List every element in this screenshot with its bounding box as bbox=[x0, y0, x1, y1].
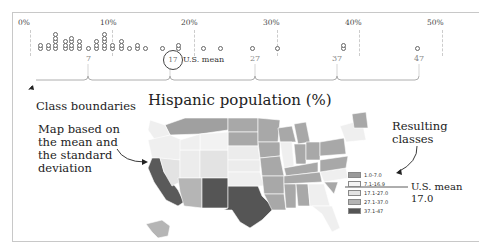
state-nd bbox=[228, 118, 258, 132]
state-or-id bbox=[148, 135, 182, 160]
state-iowa bbox=[258, 142, 280, 158]
state-maine bbox=[352, 112, 368, 128]
state-alabama bbox=[296, 184, 310, 206]
legend-swatch bbox=[348, 208, 361, 214]
mean-right-line: U.S. mean bbox=[411, 181, 462, 193]
state-georgia bbox=[308, 184, 330, 206]
legend-item: 37.1-47 bbox=[348, 207, 383, 214]
legend-item: 27.1-37.0 bbox=[348, 198, 388, 205]
state-florida bbox=[312, 206, 340, 232]
state-indiana bbox=[294, 144, 306, 164]
state-michigan bbox=[294, 122, 310, 144]
state-arkansas bbox=[262, 176, 284, 194]
mean-right-line: 17.0 bbox=[411, 193, 462, 205]
legend-label: 17.1-27.0 bbox=[364, 190, 388, 196]
legend-swatch bbox=[348, 190, 361, 196]
state-new-mexico bbox=[202, 178, 228, 208]
state-wisconsin bbox=[278, 126, 296, 142]
state-minnesota bbox=[258, 118, 280, 142]
state-utah bbox=[180, 150, 200, 178]
us-mean-legend-annotation: U.S. mean 17.0 bbox=[411, 181, 462, 205]
state-oklahoma bbox=[228, 172, 264, 186]
legend-item: 17.1-27.0 bbox=[348, 189, 388, 196]
state-wyoming bbox=[200, 132, 228, 150]
legend-item: 1.0-7.0 bbox=[348, 171, 382, 178]
legend-label: 7.1-16.9 bbox=[364, 181, 385, 187]
state-alaska bbox=[146, 220, 170, 238]
state-kansas bbox=[228, 160, 260, 172]
state-sd bbox=[228, 132, 258, 146]
state-nebraska bbox=[228, 146, 260, 160]
state-mississippi bbox=[284, 184, 296, 208]
legend-swatch bbox=[348, 172, 361, 178]
legend-label: 1.0-7.0 bbox=[364, 172, 382, 178]
legend-item: 7.1-16.9 bbox=[348, 180, 385, 187]
state-colorado bbox=[200, 150, 228, 178]
legend-label: 27.1-37.0 bbox=[364, 199, 388, 205]
state-missouri bbox=[260, 156, 284, 176]
state-pennsylvania bbox=[320, 138, 346, 156]
state-ohio bbox=[306, 142, 320, 160]
legend-label: 37.1-47 bbox=[364, 208, 383, 214]
legend-swatch bbox=[348, 199, 361, 205]
us-choropleth-map bbox=[140, 110, 370, 240]
legend-swatch bbox=[348, 181, 361, 187]
state-illinois bbox=[280, 142, 294, 168]
state-idaho bbox=[180, 134, 200, 150]
